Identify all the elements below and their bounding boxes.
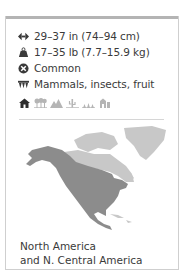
card-top-bar xyxy=(6,16,178,19)
map-caribbean xyxy=(110,214,132,223)
weight-icon xyxy=(18,47,29,58)
mountains-icon xyxy=(50,98,63,108)
range-map xyxy=(14,126,174,231)
map-greenland xyxy=(124,126,166,160)
fact-weight: 17–35 lb (7.7–15.9 kg) xyxy=(18,44,154,60)
diet-text: Mammals, insects, fruit xyxy=(34,78,154,90)
urban-icon xyxy=(18,98,31,108)
range-caption: North America and N. Central America xyxy=(20,239,143,267)
map-arctic-islands xyxy=(74,132,118,152)
status-cross-icon xyxy=(18,63,29,74)
habitat-icons xyxy=(18,94,154,108)
fact-status: Common xyxy=(18,60,154,76)
facts-list: 29–37 in (74–94 cm) 17–35 lb (7.7–15.9 k… xyxy=(18,28,154,108)
length-text: 29–37 in (74–94 cm) xyxy=(34,30,140,42)
species-info-card: 29–37 in (74–94 cm) 17–35 lb (7.7–15.9 k… xyxy=(5,16,179,270)
diet-teeth-icon xyxy=(18,79,29,90)
desert-icon xyxy=(66,98,79,108)
caption-line-1: North America xyxy=(20,239,143,253)
forest-icon xyxy=(34,98,47,108)
grassland-icon xyxy=(82,98,95,108)
fact-diet: Mammals, insects, fruit xyxy=(18,76,154,92)
section-divider xyxy=(19,119,164,120)
caption-line-2: and N. Central America xyxy=(20,253,143,267)
status-text: Common xyxy=(34,62,81,74)
fact-length: 29–37 in (74–94 cm) xyxy=(18,28,154,44)
length-arrows-icon xyxy=(18,31,29,42)
weight-text: 17–35 lb (7.7–15.9 kg) xyxy=(34,46,150,58)
farmland-icon xyxy=(98,98,111,108)
